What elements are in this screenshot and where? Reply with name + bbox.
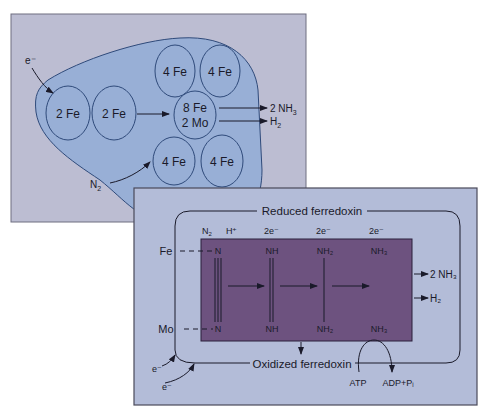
species-bottom-0: N — [215, 324, 222, 334]
label-4fe-tr: 4 Fe — [208, 65, 232, 79]
cluster-8fe-2mo — [174, 91, 216, 139]
input-2e-1: 2e⁻ — [264, 226, 279, 236]
label-2fe-b: 2 Fe — [102, 107, 126, 121]
fe-label: Fe — [160, 245, 173, 257]
electron-label: e⁻ — [25, 55, 36, 66]
nitrogenase-diagram: 2 Fe 2 Fe 4 Fe 4 Fe 8 Fe 2 Mo 4 Fe 4 Fe … — [0, 0, 490, 418]
electron-label-1: e⁻ — [152, 364, 162, 374]
input-h-plus: H⁺ — [226, 226, 238, 236]
reduced-ferredoxin-label: Reduced ferredoxin — [262, 205, 362, 217]
oxidized-ferredoxin-label: Oxidized ferredoxin — [252, 358, 351, 370]
label-4fe-br: 4 Fe — [210, 155, 234, 169]
species-top-2: NH₂ — [317, 246, 334, 256]
out-nh3: 2 NH₃ — [430, 269, 457, 280]
atp-label: ATP — [350, 378, 367, 388]
species-top-3: NH₃ — [371, 246, 388, 256]
input-2e-2: 2e⁻ — [316, 226, 331, 236]
species-bottom-3: NH₃ — [371, 324, 388, 334]
species-bottom-1: NH — [266, 324, 279, 334]
label-8fe: 8 Fe — [183, 101, 207, 115]
label-4fe-tl: 4 Fe — [163, 65, 187, 79]
input-2e-3: 2e⁻ — [369, 226, 384, 236]
species-bottom-2: NH₂ — [317, 324, 334, 334]
label-4fe-bl: 4 Fe — [162, 155, 186, 169]
electron-label-2: e⁻ — [162, 382, 172, 392]
label-2mo: 2 Mo — [182, 116, 209, 130]
label-2fe-a: 2 Fe — [56, 107, 80, 121]
out-h2: H₂ — [430, 293, 441, 304]
species-top-1: NH — [266, 246, 279, 256]
species-top-0: N — [215, 246, 222, 256]
adp-label: ADP+Pᵢ — [382, 378, 413, 388]
mo-label: Mo — [158, 323, 173, 335]
bottom-panel: Reduced ferredoxin Oxidized ferredoxin N… — [134, 188, 477, 405]
